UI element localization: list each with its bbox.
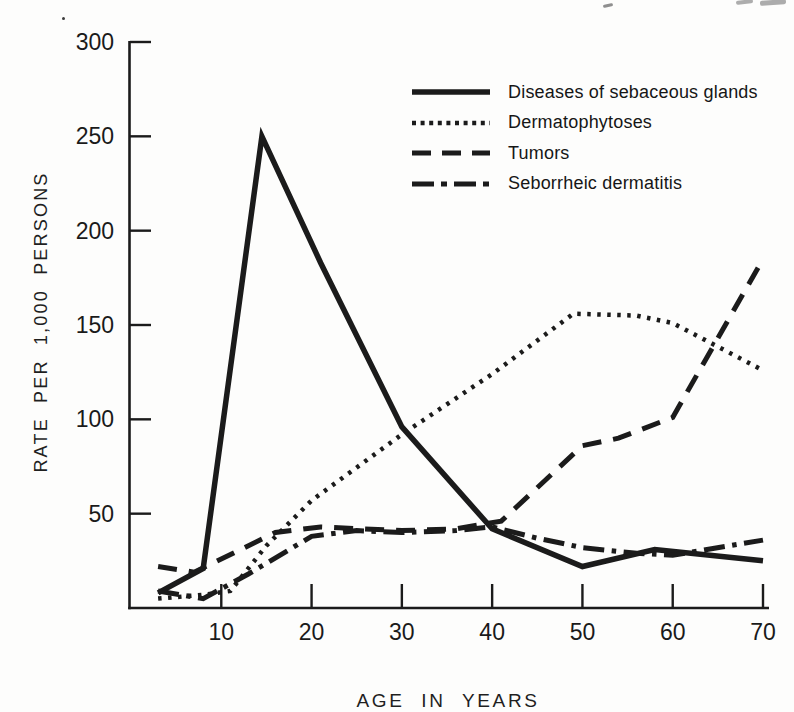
scan-speck: [62, 17, 65, 20]
y-tick-label-200: 200: [76, 218, 114, 244]
legend-dashed-line-icon: [411, 138, 491, 168]
series-lines: [158, 136, 763, 598]
x-tick-label-20: 20: [299, 619, 325, 645]
x-tick-label-60: 60: [660, 619, 686, 645]
scanned-figure-page: 5010015020025030010203040506070 Diseases…: [0, 0, 794, 712]
legend-label-tumors: Tumors: [508, 143, 570, 164]
legend-dash-dot-line-icon: [411, 169, 491, 199]
legend-item-seborrheic-dermatitis: Seborrheic dermatitis: [411, 169, 758, 200]
x-tick-label-40: 40: [479, 619, 505, 645]
series-line-diseases-of-sebaceous-glands: [158, 136, 763, 593]
legend-item-diseases-of-sebaceous-glands: Diseases of sebaceous glands: [411, 77, 758, 108]
x-tick-label-70: 70: [750, 619, 776, 645]
x-tick-label-10: 10: [208, 619, 234, 645]
chart-legend: Diseases of sebaceous glandsDermatophyto…: [411, 77, 758, 199]
legend-dotted-line-icon: [411, 108, 491, 138]
legend-label-dermatophytoses: Dermatophytoses: [508, 112, 652, 133]
legend-label-seborrheic-dermatitis: Seborrheic dermatitis: [508, 173, 682, 194]
legend-solid-line-icon: [411, 77, 491, 107]
x-tick-label-50: 50: [570, 619, 596, 645]
legend-item-dermatophytoses: Dermatophytoses: [411, 108, 758, 139]
x-axis-title: AGE IN YEARS: [357, 690, 540, 712]
series-line-tumors: [158, 259, 763, 572]
y-tick-label-250: 250: [76, 123, 114, 149]
y-tick-label-100: 100: [76, 406, 114, 432]
legend-label-diseases-of-sebaceous-glands: Diseases of sebaceous glands: [508, 82, 758, 103]
y-axis-title: RATE PER 1,000 PERSONS: [31, 171, 52, 472]
y-tick-label-50: 50: [88, 501, 114, 527]
legend-item-tumors: Tumors: [411, 138, 758, 169]
x-tick-label-30: 30: [389, 619, 415, 645]
y-tick-label-150: 150: [76, 312, 114, 338]
y-tick-label-300: 300: [76, 29, 114, 55]
